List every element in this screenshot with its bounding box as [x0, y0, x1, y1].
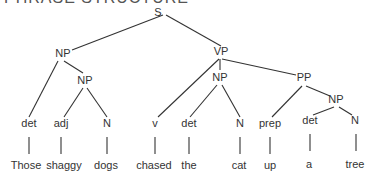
tree-edge: [87, 88, 107, 117]
word-leaf: the: [181, 159, 196, 171]
word-leaf: Those: [11, 159, 42, 171]
tree-edge: [72, 15, 163, 50]
tree-node-det2: det: [181, 117, 196, 129]
tree-node-n1: N: [103, 117, 111, 129]
tree-node-det1: det: [21, 117, 36, 129]
word-leaf: chased: [136, 159, 171, 171]
tree-node-prep1: prep: [259, 117, 281, 129]
tree-edge: [190, 85, 217, 117]
tree-node-vp: VP: [214, 45, 229, 57]
tree-node-n3: N: [351, 114, 359, 126]
tree-edge: [158, 59, 219, 117]
tree-node-n2: N: [236, 117, 244, 129]
tree-node-np1: NP: [55, 47, 70, 59]
tree-node-pp: PP: [297, 71, 312, 83]
tree-edge: [64, 88, 83, 117]
tree-edge: [166, 15, 221, 46]
tree-node-adj1: adj: [54, 117, 69, 129]
tree-node-np4: NP: [328, 93, 343, 105]
word-leaf: tree: [346, 158, 365, 170]
word-leaf: a: [306, 158, 313, 170]
tree-edge: [29, 61, 58, 117]
tree-node-v1: v: [152, 117, 158, 129]
tree-edge: [222, 59, 296, 75]
tree-edge: [222, 85, 240, 117]
parse-tree: SNPNPVPNPPPNPdetadjNvdetNprepdetNThosesh…: [0, 0, 378, 183]
word-leaf: dogs: [94, 159, 118, 171]
word-leaf: cat: [232, 159, 247, 171]
tree-node-det3: det: [302, 114, 317, 126]
tree-edge: [306, 86, 330, 96]
tree-node-np3: NP: [212, 71, 227, 83]
tree-edge: [64, 61, 83, 73]
tree-node-np2: NP: [77, 74, 92, 86]
word-leaf: up: [264, 159, 276, 171]
tree-node-s: S: [154, 6, 161, 18]
tree-edge: [272, 86, 302, 117]
word-leaf: shaggy: [46, 159, 82, 171]
